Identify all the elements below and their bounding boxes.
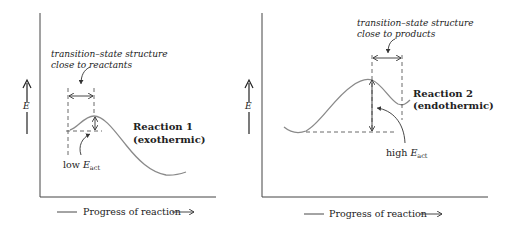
energy-label: high Eact — [386, 147, 428, 160]
energy-curve — [284, 79, 410, 132]
y-axis-label: E — [244, 101, 252, 111]
annotation-line-2: close to reactants — [51, 60, 132, 70]
annotation-line-1: transition–state structure — [51, 49, 168, 59]
annotation-line-1: transition–state structure — [357, 18, 474, 28]
energy-diagrams: E transition–state structure close to re… — [0, 0, 506, 233]
x-axis-label: Progress of reaction — [329, 208, 427, 219]
reaction-subtitle: (exothermic) — [133, 134, 205, 145]
reaction-subtitle: (endothermic) — [413, 100, 494, 111]
panel-reaction-1: E transition–state structure close to re… — [22, 13, 216, 217]
energy-label: low Eact — [63, 159, 100, 172]
x-axis-label: Progress of reaction — [83, 206, 181, 217]
panel-reaction-2: E transition–state structure close to pr… — [244, 13, 494, 219]
y-axis-label: E — [22, 101, 30, 111]
reaction-title: Reaction 2 — [413, 88, 473, 99]
reaction-title: Reaction 1 — [133, 121, 193, 132]
annotation-line-2: close to products — [357, 29, 436, 39]
